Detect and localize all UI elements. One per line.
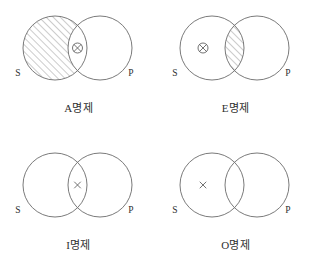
diagram-a-proposition: S P A명제 [0, 0, 157, 137]
venn-svg-i: S P [0, 137, 157, 274]
venn-diagram-grid: S P A명제 S [0, 0, 314, 274]
circled-x-icon [198, 43, 208, 53]
predicate-label-p: P [128, 68, 133, 78]
caption-e-proposition: E명제 [157, 99, 314, 115]
plain-x-icon [200, 182, 206, 188]
predicate-circle [225, 153, 289, 217]
caption-i-proposition: I명제 [0, 236, 157, 252]
plain-x-icon [75, 182, 81, 188]
subject-label-s: S [15, 205, 20, 215]
venn-svg-e: S P [157, 0, 314, 137]
venn-svg-a: S P [0, 0, 157, 137]
predicate-label-p: P [285, 68, 290, 78]
predicate-label-p: P [285, 205, 290, 215]
predicate-label-p: P [128, 205, 133, 215]
diagram-i-proposition: S P I명제 [0, 137, 157, 274]
subject-label-s: S [172, 205, 177, 215]
subject-label-s: S [15, 68, 20, 78]
caption-o-proposition: O명제 [157, 236, 314, 252]
diagram-e-proposition: S P E명제 [157, 0, 314, 137]
venn-svg-o: S P [157, 137, 314, 274]
subject-label-s: S [172, 68, 177, 78]
diagram-o-proposition: S P O명제 [157, 137, 314, 274]
caption-a-proposition: A명제 [0, 99, 157, 115]
